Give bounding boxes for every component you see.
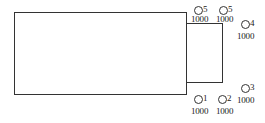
marker-id: 3 <box>250 83 255 92</box>
marker-value: 1000 <box>191 15 208 24</box>
marker-circle-icon <box>194 95 203 104</box>
marker-value: 1000 <box>237 32 254 41</box>
marker-id: 5 <box>203 5 208 14</box>
main-block <box>14 12 187 95</box>
marker-id: 5 <box>228 5 233 14</box>
marker-value: 1000 <box>191 107 208 116</box>
marker-circle-icon <box>241 84 250 93</box>
side-block <box>186 23 223 83</box>
marker-circle-icon <box>218 95 227 104</box>
marker-circle-icon <box>241 20 250 29</box>
marker-id: 1 <box>203 94 208 103</box>
marker-value: 1000 <box>216 107 233 116</box>
marker-value: 1000 <box>237 96 254 105</box>
marker-id: 2 <box>227 94 232 103</box>
marker-id: 4 <box>250 19 255 28</box>
marker-value: 1000 <box>216 15 233 24</box>
